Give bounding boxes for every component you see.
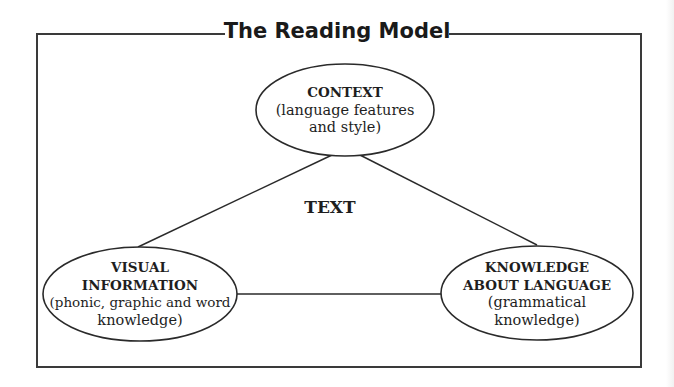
knowledge-line-1: (grammatical <box>445 294 629 312</box>
knowledge-line-2: knowledge) <box>445 312 629 330</box>
center-text-label: TEXT <box>295 197 365 217</box>
visual-line-1: (phonic, graphic and word <box>46 294 234 312</box>
knowledge-heading-2: ABOUT LANGUAGE <box>445 277 629 295</box>
visual-line-2: knowledge) <box>46 312 234 330</box>
knowledge-heading-1: KNOWLEDGE <box>445 259 629 277</box>
context-heading: CONTEXT <box>262 84 428 102</box>
knowledge-node-label: KNOWLEDGE ABOUT LANGUAGE (grammatical kn… <box>445 259 629 329</box>
context-line-1: (language features <box>262 102 428 120</box>
diagram-title: The Reading Model <box>207 14 467 48</box>
visual-heading-2: INFORMATION <box>46 277 234 295</box>
edge-context-knowledge <box>358 154 537 245</box>
context-node-label: CONTEXT (language features and style) <box>262 84 428 137</box>
context-line-2: and style) <box>262 119 428 137</box>
visual-heading-1: VISUAL <box>46 259 234 277</box>
visual-node-label: VISUAL INFORMATION (phonic, graphic and … <box>46 259 234 329</box>
